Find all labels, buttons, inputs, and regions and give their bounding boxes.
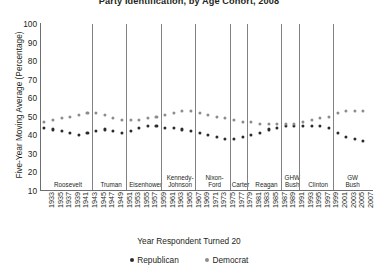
x-axis-tick: 1963 bbox=[176, 192, 185, 208]
x-axis-tick: 1965 bbox=[185, 192, 194, 208]
era-divider bbox=[247, 24, 248, 190]
y-axis-tick: 90 bbox=[28, 38, 37, 48]
x-axis-tick: 1975 bbox=[228, 192, 237, 208]
x-axis-tick: 1985 bbox=[271, 192, 280, 208]
era-divider bbox=[230, 24, 231, 190]
era-label: Kennedy-Johnson bbox=[167, 174, 194, 188]
era-divider bbox=[333, 24, 334, 190]
x-axis-tick: 2005 bbox=[357, 192, 366, 208]
chart-title: Party Identification, by Age Cohort, 200… bbox=[0, 0, 378, 6]
era-label: Reagan bbox=[255, 181, 277, 188]
plot-area bbox=[40, 24, 372, 190]
x-axis-tick: 1969 bbox=[202, 192, 211, 208]
era-divider bbox=[161, 24, 162, 190]
x-axis-tick: 1991 bbox=[297, 192, 306, 208]
x-axis-tick: 1937 bbox=[64, 192, 73, 208]
y-axis-tick: 50 bbox=[28, 112, 37, 122]
y-axis-tick: 30 bbox=[28, 149, 37, 159]
y-axis-tick: 70 bbox=[28, 75, 37, 85]
legend-label: Democrat bbox=[212, 255, 248, 265]
x-axis-tick: 1947 bbox=[107, 192, 116, 208]
era-divider bbox=[126, 24, 127, 190]
legend-marker-icon bbox=[205, 258, 209, 262]
era-label: Truman bbox=[100, 181, 121, 188]
era-divider bbox=[92, 24, 93, 190]
y-axis-tick: 40 bbox=[28, 130, 37, 140]
y-axis-tick: 60 bbox=[28, 93, 37, 103]
era-label: Nixon-Ford bbox=[206, 174, 224, 188]
x-axis-tick: 1933 bbox=[47, 192, 56, 208]
era-divider bbox=[281, 24, 282, 190]
legend-marker-icon bbox=[130, 258, 134, 262]
chart-figure: Party Identification, by Age Cohort, 200… bbox=[0, 0, 378, 272]
era-divider bbox=[195, 24, 196, 190]
era-label: Roosevelt bbox=[54, 181, 82, 188]
era-label: GWBush bbox=[345, 174, 359, 188]
chart-legend: RepublicanDemocrat bbox=[0, 255, 378, 265]
x-axis-tick: 1953 bbox=[133, 192, 142, 208]
era-label: Eisenhower bbox=[129, 181, 162, 188]
x-axis-tick: 1943 bbox=[90, 192, 99, 208]
legend-item: Republican bbox=[130, 255, 179, 265]
x-axis-tick: 1949 bbox=[116, 192, 125, 208]
x-axis-tick-labels: 1933193519371939194119431945194719491951… bbox=[0, 192, 378, 236]
x-axis-tick: 1995 bbox=[314, 192, 323, 208]
era-label: GHWBush bbox=[285, 174, 300, 188]
x-axis-title: Year Respondent Turned 20 bbox=[0, 236, 378, 246]
era-divider bbox=[299, 24, 300, 190]
x-axis-tick: 1959 bbox=[159, 192, 168, 208]
legend-label: Republican bbox=[137, 255, 179, 265]
x-axis-tick: 2001 bbox=[340, 192, 349, 208]
y-axis-tick: 100 bbox=[23, 19, 37, 29]
x-axis-tick: 1989 bbox=[288, 192, 297, 208]
x-axis-tick: 2007 bbox=[366, 192, 375, 208]
x-axis-line bbox=[40, 190, 373, 191]
legend-item: Democrat bbox=[205, 255, 249, 265]
x-axis-tick: 1979 bbox=[245, 192, 254, 208]
era-label: Clinton bbox=[308, 181, 328, 188]
y-axis-tick: 80 bbox=[28, 56, 37, 66]
y-axis-tick: 20 bbox=[28, 167, 37, 177]
